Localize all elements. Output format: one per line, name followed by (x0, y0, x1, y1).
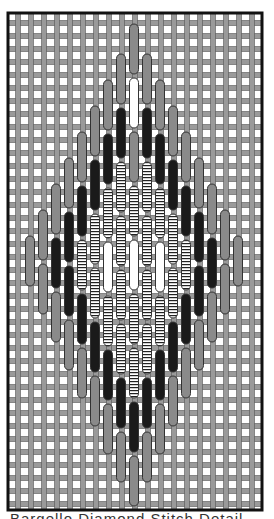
stitch-dark (182, 186, 191, 236)
stitch-striped (169, 214, 178, 264)
stitch-striped (156, 188, 165, 238)
stitch-medium (195, 320, 204, 370)
stitch-medium (65, 158, 74, 208)
stitch-medium (182, 132, 191, 182)
stitch-medium (169, 376, 178, 426)
stitch-diagram (0, 0, 274, 519)
stitch-medium (234, 236, 243, 286)
stitch-medium (117, 54, 126, 104)
stitch-medium (130, 456, 139, 506)
stitch-medium (156, 80, 165, 130)
diagram-caption: Bargello Diamond Stitch Detail (10, 507, 270, 519)
stitch-dark (65, 266, 74, 316)
stitch-light (130, 240, 139, 290)
mesh-thread-vertical (224, 13, 229, 510)
stitch-medium (130, 132, 139, 182)
stitch-medium (91, 106, 100, 156)
stitch-striped (117, 270, 126, 320)
stitch-dark (169, 322, 178, 372)
stitch-striped (156, 296, 165, 346)
stitch-dark (195, 212, 204, 262)
stitch-striped (130, 348, 139, 398)
stitch-medium (78, 348, 87, 398)
stitch-striped (143, 216, 152, 266)
stitch-medium (104, 80, 113, 130)
stitch-medium (208, 292, 217, 342)
stitch-striped (91, 268, 100, 318)
stitch-dark (208, 238, 217, 288)
stitch-striped (130, 294, 139, 344)
stitch-dark (78, 294, 87, 344)
stitch-dark (169, 160, 178, 210)
stitch-medium (117, 432, 126, 482)
stitch-medium (78, 132, 87, 182)
stitch-dark (143, 108, 152, 158)
stitch-striped (117, 324, 126, 374)
stitch-dark (156, 134, 165, 184)
mesh-thread-vertical (42, 13, 47, 510)
stitch-dark (195, 266, 204, 316)
stitch-striped (117, 162, 126, 212)
stitch-medium (52, 292, 61, 342)
stitch-light (156, 242, 165, 292)
stitch-medium (182, 348, 191, 398)
stitch-medium (143, 54, 152, 104)
stitch-striped (104, 188, 113, 238)
stitch-medium (39, 210, 48, 260)
stitch-striped (130, 186, 139, 236)
stitch-dark (117, 378, 126, 428)
stitch-striped (117, 216, 126, 266)
stitch-dark (156, 350, 165, 400)
stitch-striped (143, 324, 152, 374)
stitch-dark (143, 378, 152, 428)
stitch-striped (182, 240, 191, 290)
stitch-medium (65, 320, 74, 370)
stitch-dark (52, 238, 61, 288)
stitch-medium (39, 264, 48, 314)
stitch-medium (104, 404, 113, 454)
stitch-medium (208, 184, 217, 234)
mesh-thread-vertical (16, 13, 21, 510)
stitch-dark (91, 160, 100, 210)
stitch-striped (143, 162, 152, 212)
stitch-medium (221, 210, 230, 260)
stitch-medium (130, 24, 139, 74)
stitch-dark (104, 134, 113, 184)
mesh-thread-vertical (250, 13, 255, 510)
stitch-striped (169, 268, 178, 318)
stitch-medium (221, 264, 230, 314)
stitch-medium (195, 158, 204, 208)
stitch-medium (52, 184, 61, 234)
stitch-medium (26, 236, 35, 286)
stitch-striped (143, 270, 152, 320)
stitch-light (130, 78, 139, 128)
stitch-striped (104, 296, 113, 346)
stitch-light (104, 242, 113, 292)
stitch-striped (91, 214, 100, 264)
stitch-dark (78, 186, 87, 236)
stitch-dark (65, 212, 74, 262)
stitch-dark (91, 322, 100, 372)
stitch-dark (104, 350, 113, 400)
stitch-medium (169, 106, 178, 156)
stitch-medium (156, 404, 165, 454)
stitch-dark (130, 402, 139, 452)
stitch-striped (78, 240, 87, 290)
stitch-dark (182, 294, 191, 344)
stitch-dark (117, 108, 126, 158)
stitch-medium (143, 432, 152, 482)
stitch-medium (91, 376, 100, 426)
